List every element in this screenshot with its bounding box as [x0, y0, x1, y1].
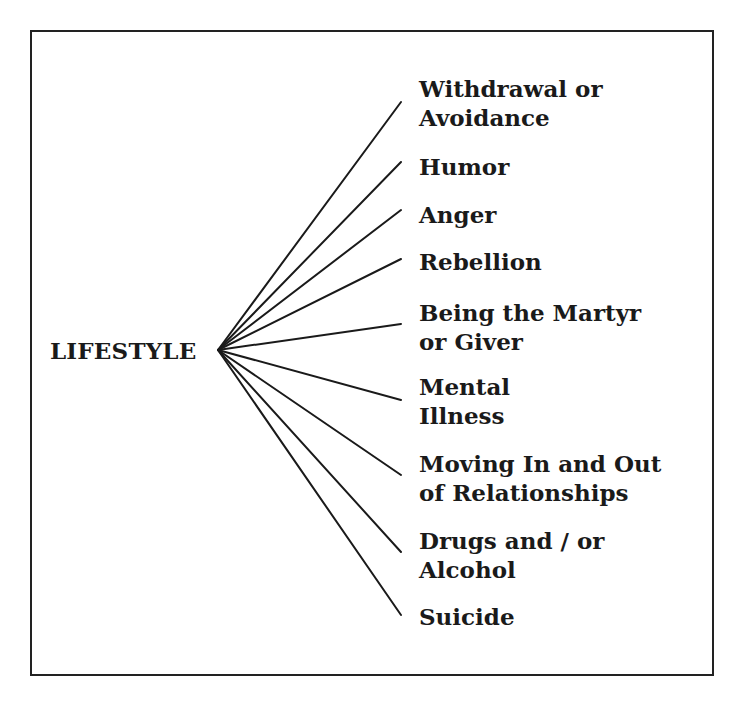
branch-line: or Giver — [419, 327, 641, 356]
branch-withdrawal-or-avoidance: Withdrawal or Avoidance — [419, 74, 603, 132]
branch-line: Anger — [419, 200, 496, 229]
connector-line-6 — [218, 350, 401, 475]
branch-line: Drugs and / or — [419, 526, 604, 555]
branch-being-the-martyr-or-giver: Being the Martyr or Giver — [419, 298, 641, 356]
connector-line-5 — [218, 350, 401, 400]
branch-rebellion: Rebellion — [419, 247, 542, 276]
branch-anger: Anger — [419, 200, 496, 229]
branch-line: Mental — [419, 372, 510, 401]
connector-line-2 — [218, 210, 401, 350]
root-label-lifestyle: LIFESTYLE — [50, 337, 196, 365]
branch-line: Alcohol — [419, 555, 604, 584]
connector-line-7 — [218, 350, 401, 552]
branch-line: Humor — [419, 152, 509, 181]
branch-moving-in-and-out-of-relationships: Moving In and Out of Relationships — [419, 449, 661, 507]
branch-line: Avoidance — [419, 103, 603, 132]
branch-line: of Relationships — [419, 478, 661, 507]
connector-line-8 — [218, 350, 401, 615]
branch-line: Withdrawal or — [419, 74, 603, 103]
branch-line: Suicide — [419, 602, 515, 631]
connector-line-1 — [218, 162, 401, 350]
branch-humor: Humor — [419, 152, 509, 181]
branch-line: Illness — [419, 401, 510, 430]
branch-line: Being the Martyr — [419, 298, 641, 327]
connector-line-0 — [218, 102, 401, 350]
branch-suicide: Suicide — [419, 602, 515, 631]
branch-drugs-and-or-alcohol: Drugs and / or Alcohol — [419, 526, 604, 584]
branch-mental-illness: Mental Illness — [419, 372, 510, 430]
branch-line: Rebellion — [419, 247, 542, 276]
branch-line: Moving In and Out — [419, 449, 661, 478]
